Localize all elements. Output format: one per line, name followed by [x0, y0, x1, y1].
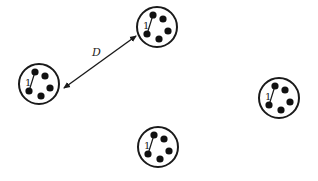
link-label: 1	[265, 91, 271, 102]
cluster-bottom: 1	[138, 127, 178, 167]
point	[144, 150, 151, 157]
point	[281, 86, 288, 93]
cluster-distance-diagram: D 1111	[0, 0, 318, 181]
point	[143, 30, 150, 37]
cluster-top: 1	[137, 7, 177, 47]
point	[149, 11, 156, 18]
distance-arrow	[64, 36, 136, 88]
link-label: 1	[143, 20, 149, 31]
point	[160, 135, 167, 142]
point	[37, 92, 44, 99]
point	[164, 27, 171, 34]
point	[46, 84, 53, 91]
point	[165, 147, 172, 154]
distance-label: D	[91, 46, 101, 59]
point	[265, 101, 272, 108]
point	[156, 155, 163, 162]
point	[277, 106, 284, 113]
cluster-left: 1	[19, 64, 59, 104]
diagram-canvas: D 1111	[0, 0, 318, 181]
point	[286, 98, 293, 105]
link-label: 1	[25, 77, 31, 88]
cluster-right: 1	[259, 78, 299, 118]
point	[25, 87, 32, 94]
point	[159, 15, 166, 22]
clusters: 1111	[19, 7, 299, 167]
point	[271, 82, 278, 89]
point	[41, 72, 48, 79]
point	[150, 131, 157, 138]
link-label: 1	[144, 140, 150, 151]
point	[31, 68, 38, 75]
point	[155, 35, 162, 42]
